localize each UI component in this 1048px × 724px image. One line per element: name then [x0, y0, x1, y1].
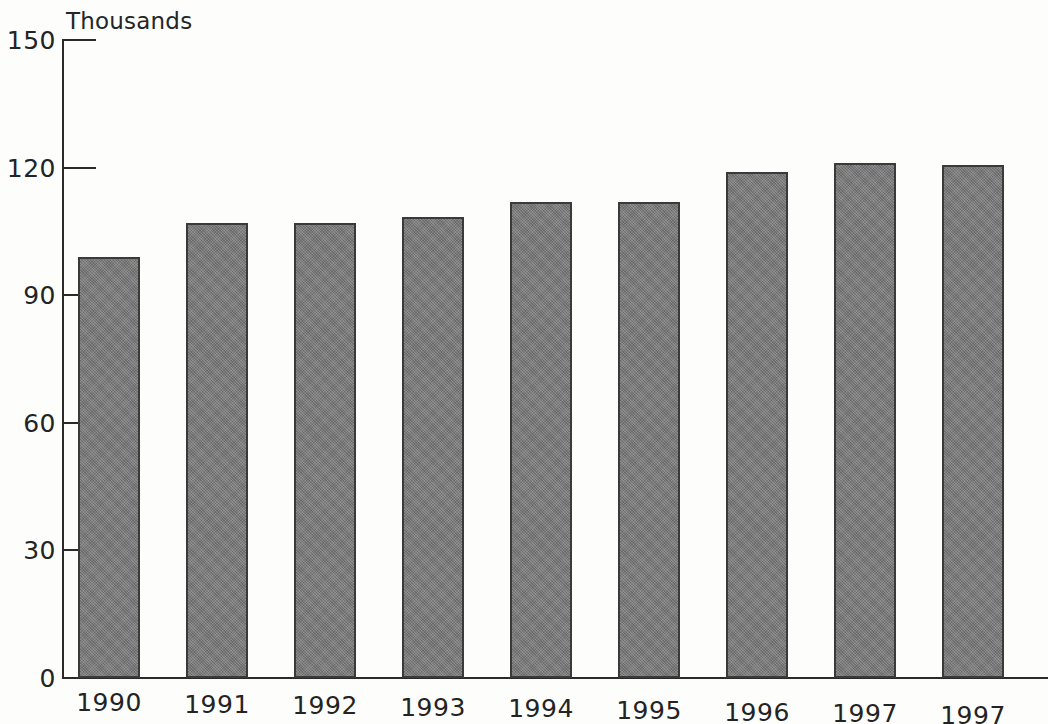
- x-axis-label: 1997: [805, 699, 925, 724]
- y-axis-tick: [62, 167, 96, 169]
- x-axis-label: 1990: [49, 688, 169, 717]
- bar: [78, 257, 140, 678]
- y-axis-label: 90: [0, 281, 56, 310]
- x-axis-label: 1994: [481, 694, 601, 723]
- x-axis-label: 1993: [373, 693, 493, 722]
- x-axis-label: 1997: [913, 701, 1033, 724]
- x-axis-label: 1992: [265, 691, 385, 720]
- y-axis-tick: [62, 39, 96, 41]
- bar: [186, 223, 248, 678]
- y-axis-label: 120: [0, 153, 56, 182]
- y-axis-label: 60: [0, 408, 56, 437]
- bar: [942, 165, 1004, 678]
- bar: [834, 163, 896, 678]
- x-axis-label: 1995: [589, 696, 709, 724]
- y-axis-label: 150: [0, 26, 56, 55]
- bar: [294, 223, 356, 678]
- y-axis-label: 30: [0, 536, 56, 565]
- plot-area: 0306090120150199019911992199319941995199…: [0, 0, 1048, 724]
- bar: [510, 202, 572, 678]
- y-axis-label: 0: [0, 664, 56, 693]
- x-axis-label: 1996: [697, 698, 817, 724]
- bar: [618, 202, 680, 678]
- bar: [726, 172, 788, 678]
- x-axis-label: 1991: [157, 690, 277, 719]
- bar-chart: Thousands 030609012015019901991199219931…: [0, 0, 1048, 724]
- bar: [402, 217, 464, 678]
